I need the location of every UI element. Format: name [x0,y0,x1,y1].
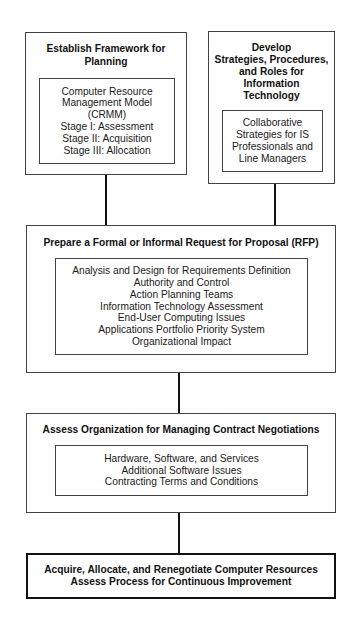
framework-item: Stage II: Acquisition [62,133,151,145]
rfp-title: Prepare a Formal or Informal Request for… [27,237,335,250]
strategies-box: Develop Strategies, Procedures, and Role… [208,31,335,184]
rfp-item: Analysis and Design for Requirements Def… [72,265,291,277]
framework-item: (CRMM) [88,109,126,121]
rfp-inner-box: Analysis and Design for Requirements Def… [55,258,308,355]
final-line: Assess Process for Continuous Improvemen… [71,576,292,589]
strategies-item: Collaborative [243,117,302,129]
framework-box: Establish Framework for Planning Compute… [25,32,187,175]
final-box: Acquire, Allocate, and Renegotiate Compu… [26,553,336,599]
connector-framework-to-rfp [105,175,107,225]
negotiations-box: Assess Organization for Managing Contrac… [26,413,336,513]
rfp-item: Action Planning Teams [130,289,233,301]
framework-title: Establish Framework for Planning [26,43,186,68]
rfp-box: Prepare a Formal or Informal Request for… [26,225,336,373]
strategies-title-line: Technology [209,90,334,102]
strategies-item: Professionals and [232,141,313,153]
rfp-item: Information Technology Assessment [100,301,263,313]
connector-rfp-to-negotiations [178,372,180,413]
strategies-inner-box: Collaborative Strategies for IS Professi… [222,110,323,172]
framework-title-line: Planning [26,56,186,69]
framework-inner-box: Computer Resource Management Model (CRMM… [39,78,175,164]
strategies-title-line: Information [209,78,334,90]
negotiations-item: Hardware, Software, and Services [104,453,259,465]
strategies-item: Strategies for IS [236,129,309,141]
rfp-item: Organizational Impact [132,336,231,348]
rfp-item: Authority and Control [134,277,230,289]
framework-item: Stage III: Allocation [63,145,150,157]
negotiations-inner-box: Hardware, Software, and Services Additio… [55,445,308,496]
framework-item: Computer Resource [61,86,152,98]
framework-item: Management Model [62,97,152,109]
strategies-title-line: Strategies, Procedures, [209,54,334,66]
negotiations-title: Assess Organization for Managing Contrac… [27,424,335,437]
rfp-item: End-User Computing Issues [118,312,245,324]
framework-title-line: Establish Framework for [26,43,186,56]
strategies-item: Line Managers [239,153,306,165]
framework-item: Stage I: Assessment [61,121,154,133]
connector-strategies-to-rfp [274,184,276,225]
rfp-item: Applications Portfolio Priority System [98,324,264,336]
negotiations-item: Contracting Terms and Conditions [105,476,258,488]
final-line: Acquire, Allocate, and Renegotiate Compu… [44,564,318,577]
connector-negotiations-to-final [178,512,180,553]
strategies-title: Develop Strategies, Procedures, and Role… [209,42,334,102]
negotiations-item: Additional Software Issues [121,465,241,477]
strategies-title-line: and Roles for [209,66,334,78]
strategies-title-line: Develop [209,42,334,54]
